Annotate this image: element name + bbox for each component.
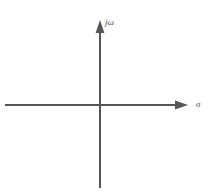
real-axis-label: σ xyxy=(196,100,200,109)
complex-s-plane-diagram: jω σ xyxy=(0,0,214,194)
right-arrow-icon xyxy=(175,101,188,110)
axes-canvas xyxy=(0,0,214,194)
up-arrow-icon xyxy=(96,20,105,33)
imaginary-axis-label: jω xyxy=(105,18,114,27)
real-axis-group xyxy=(5,101,188,110)
